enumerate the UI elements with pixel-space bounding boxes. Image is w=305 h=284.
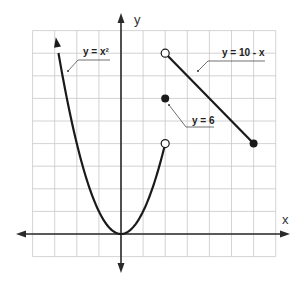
point-annotation: y = 6: [168, 104, 215, 127]
parabola-annotation: y = x²: [67, 46, 110, 72]
piecewise-graph: y x y = x² y = 10 - x y = 6: [0, 0, 305, 284]
filled-point-marker: [161, 94, 169, 102]
line-label: y = 10 - x: [222, 47, 265, 58]
open-circle-marker: [161, 140, 169, 148]
y-axis-label: y: [134, 12, 141, 27]
point-label: y = 6: [192, 115, 215, 126]
x-axis: [16, 231, 290, 238]
x-axis-left-arrow-icon: [16, 231, 26, 238]
grid: [33, 31, 276, 257]
y-axis-down-arrow-icon: [118, 263, 125, 273]
y-axis-up-arrow-icon: [118, 13, 125, 23]
filled-endpoint-marker: [250, 140, 258, 148]
parabola-label: y = x²: [83, 46, 110, 57]
open-circle-marker: [161, 49, 169, 57]
x-axis-label: x: [282, 212, 289, 227]
line-annotation: y = 10 - x: [197, 47, 265, 72]
x-axis-right-arrow-icon: [280, 231, 290, 238]
